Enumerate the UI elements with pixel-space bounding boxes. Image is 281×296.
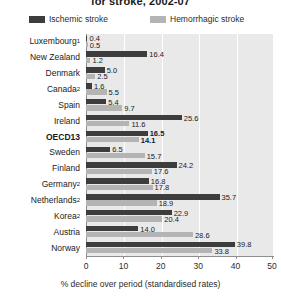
category-label-ireland: Ireland [0,113,82,128]
bar-value-label: 39.8 [237,241,252,249]
bar-value-label: 0.5 [90,42,100,50]
bar-hemorrhagic[interactable] [86,248,212,253]
bar-group: 5.02.5 [86,66,273,81]
x-tick-label-10: 10 [119,261,128,271]
bar-value-label: 35.7 [222,194,237,202]
chart-row: Finland24.217.6 [0,161,281,176]
x-tick-0 [86,256,87,259]
bar-ischemic[interactable] [86,194,220,199]
chart-row: Luxembourg10.40.5 [0,34,281,49]
bar-value-label: 11.6 [131,121,145,129]
bar-value-label: 1.2 [92,57,102,65]
bar-group: 16.514.1 [86,129,273,144]
x-tick-label-0: 0 [84,261,89,271]
bar-value-label: 5.0 [107,67,117,75]
chart-row: Austria14.028.6 [0,224,281,239]
bar-group: 16.41.2 [86,50,273,65]
chart-row: OECD1316.514.1 [0,129,281,144]
bar-value-label: 17.8 [155,184,170,192]
bar-ischemic[interactable] [86,242,235,247]
category-label-korea: Korea2 [0,208,82,223]
legend-swatch-icon [29,16,45,23]
category-label-germany: Germany2 [0,177,82,192]
bar-value-label: 33.8 [214,248,229,256]
chart-row: Sweden6.515.7 [0,145,281,160]
x-tick-label-50: 50 [267,261,276,271]
chart-row: Netherlands235.718.9 [0,193,281,208]
category-label-sweden: Sweden [0,145,82,160]
bar-group: 6.515.7 [86,145,273,160]
bar-hemorrhagic[interactable] [86,58,90,63]
bar-value-label: 25.6 [184,115,199,123]
bar-ischemic[interactable] [86,36,87,41]
x-axis-line [86,256,274,257]
category-label-netherlands: Netherlands2 [0,193,82,208]
bar-group: 24.217.6 [86,161,273,176]
legend-label-hemorrhagic: Hemorrhagic stroke [170,15,244,24]
bar-group: 25.611.6 [86,113,273,128]
bar-ischemic[interactable] [86,226,138,231]
legend-item-ischemic[interactable]: Ischemic stroke [29,15,108,24]
bar-value-label: 15.7 [147,153,162,161]
chart-row: Denmark5.02.5 [0,66,281,81]
legend-label-ischemic: Ischemic stroke [49,15,108,24]
chart-row: Norway39.833.8 [0,240,281,255]
x-tick-20 [161,256,162,259]
chart-title: for stroke, 2002-07 [0,0,281,7]
bar-value-label: 28.6 [195,232,210,240]
category-label-austria: Austria [0,224,82,239]
bar-value-label: 17.6 [154,168,169,176]
bar-group: 5.49.7 [86,97,273,112]
bar-hemorrhagic[interactable] [86,232,193,237]
bar-hemorrhagic[interactable] [86,153,145,158]
x-tick-label-30: 30 [193,261,202,271]
bar-hemorrhagic[interactable] [86,121,129,126]
x-tick-label-20: 20 [156,261,165,271]
bar-ischemic[interactable] [86,147,110,152]
chart-legend: Ischemic stroke Hemorrhagic stroke [0,15,281,28]
bar-group: 22.920.4 [86,208,273,223]
bar-value-label: 5.5 [109,89,119,97]
chart-row: New Zealand16.41.2 [0,50,281,65]
stroke-decline-bar-chart: for stroke, 2002-07 Ischemic stroke Hemo… [0,0,281,296]
bar-value-label: 9.7 [124,105,134,113]
bar-group: 1.65.5 [86,82,273,97]
bar-ischemic[interactable] [86,131,148,136]
bar-ischemic[interactable] [86,210,172,215]
chart-row: Germany216.817.8 [0,177,281,192]
x-tick-40 [236,256,237,259]
bar-hemorrhagic[interactable] [86,200,157,205]
bar-group: 0.40.5 [86,34,273,49]
bar-hemorrhagic[interactable] [86,169,152,174]
bar-hemorrhagic[interactable] [86,216,162,221]
chart-row: Canada21.65.5 [0,82,281,97]
bar-hemorrhagic[interactable] [86,74,95,79]
chart-row: Korea222.920.4 [0,208,281,223]
bar-ischemic[interactable] [86,83,92,88]
bar-value-label: 24.2 [179,162,194,170]
bar-ischemic[interactable] [86,99,106,104]
category-label-luxembourg: Luxembourg1 [0,34,82,49]
bar-hemorrhagic[interactable] [86,137,139,142]
bar-ischemic[interactable] [86,178,149,183]
bar-group: 16.817.8 [86,177,273,192]
bar-value-label: 18.9 [159,200,174,208]
chart-row: Ireland25.611.6 [0,113,281,128]
bar-hemorrhagic[interactable] [86,105,122,110]
category-label-canada: Canada2 [0,82,82,97]
category-label-finland: Finland [0,161,82,176]
bar-value-label: 20.4 [164,216,179,224]
x-tick-label-40: 40 [231,261,240,271]
bar-hemorrhagic[interactable] [86,89,107,94]
bar-value-label: 16.4 [149,51,164,59]
bar-value-label: 2.5 [97,73,107,81]
bar-group: 35.718.9 [86,193,273,208]
legend-item-hemorrhagic[interactable]: Hemorrhagic stroke [150,15,244,24]
category-label-norway: Norway [0,240,82,255]
bar-hemorrhagic[interactable] [86,42,88,47]
bar-group: 14.028.6 [86,224,273,239]
bar-value-label: 14.1 [141,137,156,145]
bar-hemorrhagic[interactable] [86,185,153,190]
x-axis-title: % decline over period (standardised rate… [0,279,281,289]
x-tick-50 [272,256,273,259]
